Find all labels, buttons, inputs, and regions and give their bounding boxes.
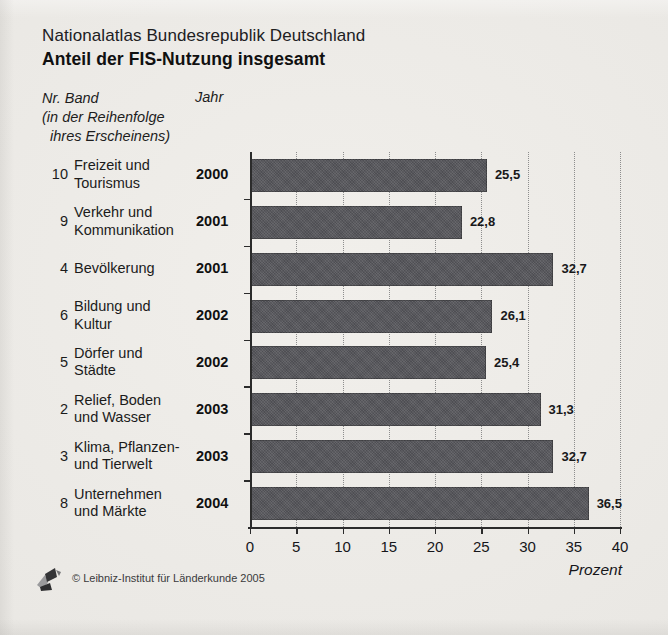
row-number: 6 <box>42 307 68 323</box>
x-tick-label-25: 25 <box>473 538 490 555</box>
bar-value-label: 25,5 <box>495 167 520 182</box>
column-heading-jahr: Jahr <box>195 89 223 105</box>
x-tick-15 <box>389 527 390 534</box>
x-tick-20 <box>435 527 436 534</box>
row-name: Freizeit und Tourismus <box>74 157 150 192</box>
row-year: 2004 <box>196 495 228 511</box>
row-number: 5 <box>42 354 68 370</box>
x-tick-10 <box>343 527 344 534</box>
plot-area: 25,522,832,726,125,431,332,736,5 0510152… <box>250 152 620 527</box>
bar-value-label: 31,3 <box>549 402 574 417</box>
x-tick-label-0: 0 <box>246 538 254 555</box>
bar <box>251 393 541 426</box>
footer: © Leibniz-Institut für Länderkunde 2005 <box>34 563 265 593</box>
row-year: 2003 <box>196 401 228 417</box>
row-year: 2002 <box>196 354 228 370</box>
row-year: 2001 <box>196 260 228 276</box>
gridline-35 <box>574 152 576 527</box>
bar <box>251 253 553 286</box>
row-number: 9 <box>42 213 68 229</box>
x-tick-label-20: 20 <box>427 538 444 555</box>
row-name: Klima, Pflanzen- und Tierwelt <box>74 439 180 474</box>
bar <box>251 440 553 473</box>
row-number: 2 <box>42 401 68 417</box>
title-block: Nationalatlas Bundesrepublik Deutschland… <box>42 26 365 70</box>
page-title: Anteil der FIS-Nutzung insgesamt <box>42 49 365 70</box>
row-name: Verkehr und Kommunikation <box>74 204 174 239</box>
row-name: Unternehmen und Märkte <box>74 486 162 521</box>
x-tick-label-40: 40 <box>612 538 629 555</box>
chart-suptitle: Nationalatlas Bundesrepublik Deutschland <box>42 26 365 46</box>
x-tick-label-35: 35 <box>565 538 582 555</box>
x-tick-40 <box>620 527 621 534</box>
x-tick-label-15: 15 <box>380 538 397 555</box>
row-number: 4 <box>42 260 68 276</box>
x-tick-25 <box>481 527 482 534</box>
x-tick-5 <box>296 527 297 534</box>
row-year: 2000 <box>196 166 228 182</box>
bar <box>251 346 486 379</box>
x-axis-title: Prozent <box>569 561 622 579</box>
row-name: Bildung und Kultur <box>74 298 151 333</box>
bar <box>251 300 492 333</box>
row-number: 10 <box>42 166 68 182</box>
bar-value-label: 32,7 <box>561 261 586 276</box>
row-name: Bevölkerung <box>74 260 155 278</box>
x-tick-35 <box>574 527 575 534</box>
row-number: 8 <box>42 495 68 511</box>
gridline-40 <box>620 152 622 527</box>
x-tick-label-10: 10 <box>334 538 351 555</box>
copyright-text: © Leibniz-Institut für Länderkunde 2005 <box>72 572 265 584</box>
row-year: 2002 <box>196 307 228 323</box>
ifl-logo-icon <box>34 563 64 593</box>
row-year: 2001 <box>196 213 228 229</box>
row-year: 2003 <box>196 448 228 464</box>
bar <box>251 159 487 192</box>
row-number: 3 <box>42 448 68 464</box>
bar <box>251 487 589 520</box>
y-axis-line <box>250 152 252 527</box>
bar-value-label: 26,1 <box>500 308 525 323</box>
bar-value-label: 36,5 <box>597 496 622 511</box>
x-tick-label-30: 30 <box>519 538 536 555</box>
x-tick-30 <box>528 527 529 534</box>
bar <box>251 206 462 239</box>
x-tick-label-5: 5 <box>292 538 300 555</box>
row-name: Dörfer und Städte <box>74 345 143 380</box>
chart-figure: Nationalatlas Bundesrepublik Deutschland… <box>0 0 668 635</box>
x-tick-0 <box>250 527 251 534</box>
bar-value-label: 25,4 <box>494 355 519 370</box>
bar-value-label: 22,8 <box>470 214 495 229</box>
row-name: Relief, Boden und Wasser <box>74 392 161 427</box>
bar-value-label: 32,7 <box>561 449 586 464</box>
column-heading-band: Nr. Band (in der Reihenfolge ihres Ersch… <box>42 89 170 146</box>
